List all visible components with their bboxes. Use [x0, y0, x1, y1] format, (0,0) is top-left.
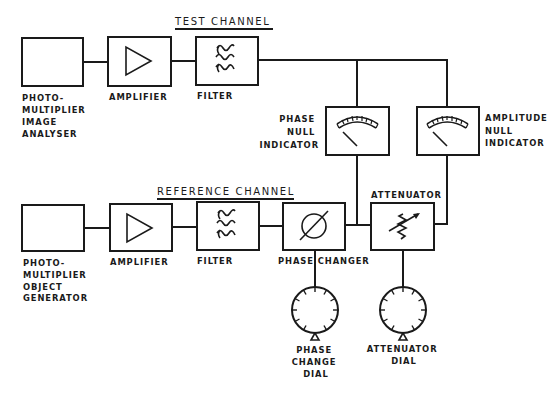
block-pm-image-analyser: PHOTO- MULTIPLIER IMAGE ANALYSER	[22, 38, 90, 139]
dial-pointer-icon	[311, 333, 319, 340]
phase-null-indicator-box	[326, 107, 389, 155]
block-phase-changer: PHASE CHANGER	[278, 203, 370, 266]
wire-test-bus	[258, 60, 447, 107]
block-pm-object-generator: PHOTO- MULTIPLIER OBJECT GENERATOR	[22, 205, 91, 303]
ref-amplifier-label: AMPLIFIER	[110, 257, 169, 267]
dial-icon[interactable]	[292, 287, 338, 333]
attenuator-label: ATTENUATOR	[371, 190, 442, 200]
pm-object-generator-label: PHOTO- MULTIPLIER OBJECT GENERATOR	[23, 258, 91, 303]
amplitude-null-indicator-box	[417, 107, 479, 155]
ref-filter-box	[197, 202, 259, 250]
phase-changer-label: PHASE CHANGER	[278, 256, 370, 266]
amplitude-null-indicator-label: AMPLITUDE NULL INDICATOR	[485, 113, 552, 148]
phase-null-indicator-label: PHASE NULL INDICATOR	[259, 114, 319, 150]
dial-icon[interactable]	[380, 287, 426, 333]
test-filter-box	[196, 37, 258, 85]
ref-amplifier-box	[110, 204, 172, 251]
block-diagram: TEST CHANNEL REFERENCE CHANNEL PHOTO- MU…	[0, 0, 559, 393]
reference-channel-title: REFERENCE CHANNEL	[157, 186, 295, 199]
reference-channel-title-text: REFERENCE CHANNEL	[157, 186, 295, 197]
block-test-amplifier: AMPLIFIER	[108, 37, 171, 102]
dial-pointer-icon	[399, 333, 407, 340]
ref-filter-label: FILTER	[197, 256, 233, 266]
block-attenuator: ATTENUATOR	[371, 190, 442, 250]
attenuator-dial[interactable]: ATTENUATOR DIAL	[367, 287, 442, 366]
block-ref-amplifier: AMPLIFIER	[110, 204, 172, 267]
pm-image-analyser-label: PHOTO- MULTIPLIER IMAGE ANALYSER	[22, 93, 90, 139]
phase-null-indicator: PHASE NULL INDICATOR	[259, 107, 389, 155]
test-amplifier-label: AMPLIFIER	[109, 92, 168, 102]
test-filter-label: FILTER	[197, 91, 233, 101]
phase-change-dial[interactable]: PHASE CHANGE DIAL	[292, 287, 340, 379]
amplitude-null-indicator: AMPLITUDE NULL INDICATOR	[417, 107, 552, 155]
test-channel-title-text: TEST CHANNEL	[174, 16, 270, 27]
test-amplifier-box	[108, 37, 171, 86]
attenuator-dial-label: ATTENUATOR DIAL	[367, 344, 442, 366]
block-test-filter: FILTER	[196, 37, 258, 101]
phase-change-dial-label: PHASE CHANGE DIAL	[292, 345, 340, 379]
pm-object-generator-box	[22, 205, 84, 251]
test-channel-title: TEST CHANNEL	[174, 16, 273, 29]
pm-image-analyser-box	[22, 38, 83, 86]
block-ref-filter: FILTER	[197, 202, 259, 266]
